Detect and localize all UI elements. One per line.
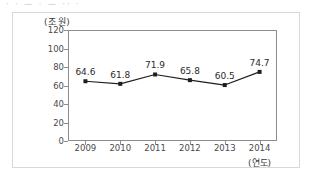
y-axis-tick-label: 0 <box>38 136 64 146</box>
chart-page: · · — · — ·· · (조 원) 020406080100120 200… <box>0 0 310 180</box>
y-axis-tick-mark <box>64 141 68 142</box>
y-axis-tick-mark <box>64 67 68 68</box>
data-point-value-label: 64.6 <box>75 67 95 77</box>
data-point-marker <box>258 70 262 74</box>
x-axis-tick-mark <box>225 141 226 145</box>
data-point-value-label: 71.9 <box>145 60 165 70</box>
data-point-marker <box>118 82 122 86</box>
x-axis-tick-mark <box>85 141 86 145</box>
data-point-marker <box>223 83 227 87</box>
x-axis-tick-mark <box>120 141 121 145</box>
y-axis-tick-label: 20 <box>38 118 64 128</box>
y-axis-tick-labels: 020406080100120 <box>38 30 64 141</box>
y-axis-tick-label: 60 <box>38 81 64 91</box>
x-axis-tick-labels: 200920102011201220132014 <box>68 143 277 157</box>
data-point-value-label: 61.8 <box>110 70 130 80</box>
series-line-layer <box>68 30 277 141</box>
y-axis-tick-mark <box>64 86 68 87</box>
data-point-marker <box>153 72 157 76</box>
top-clipped-text-artifact: · · — · — ·· · <box>6 0 156 5</box>
x-axis-tick-mark <box>260 141 261 145</box>
y-axis-tick-mark <box>64 30 68 31</box>
data-point-value-label: 65.8 <box>180 66 200 76</box>
x-axis-tick-mark <box>190 141 191 145</box>
x-axis-unit-label: (연도) <box>248 156 271 169</box>
data-point-marker <box>188 78 192 82</box>
y-axis-tick-mark <box>64 123 68 124</box>
y-axis-tick-label: 80 <box>38 62 64 72</box>
y-axis-tick-mark <box>64 104 68 105</box>
y-axis-tick-label: 120 <box>38 25 64 35</box>
y-axis-tick-label: 40 <box>38 99 64 109</box>
data-point-marker <box>83 79 87 83</box>
data-point-value-label: 74.7 <box>250 58 270 68</box>
y-axis-tick-label: 100 <box>38 44 64 54</box>
y-axis-tick-mark <box>64 49 68 50</box>
x-axis-tick-mark <box>155 141 156 145</box>
data-point-value-label: 60.5 <box>215 71 235 81</box>
